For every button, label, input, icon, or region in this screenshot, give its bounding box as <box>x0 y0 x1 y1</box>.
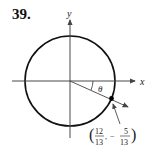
point-coordinates: ( 12 13 , − 5 13 ) <box>89 126 136 147</box>
angle-label: θ <box>98 84 103 94</box>
svg-text:5: 5 <box>124 127 128 136</box>
point-pointer <box>113 104 120 124</box>
svg-text:12: 12 <box>95 127 103 136</box>
x-axis-label: x <box>139 76 145 87</box>
svg-text:13: 13 <box>120 138 128 147</box>
svg-text:13: 13 <box>95 138 103 147</box>
svg-text:,: , <box>105 132 107 141</box>
point-marker <box>109 96 114 101</box>
svg-text:): ) <box>131 126 136 144</box>
svg-text:(: ( <box>89 126 94 144</box>
unit-circle-diagram: x y θ ( 12 13 , − 5 13 ) <box>0 0 152 156</box>
angle-arc <box>91 81 93 90</box>
svg-text:−: − <box>110 132 115 141</box>
y-axis-label: y <box>66 8 72 19</box>
